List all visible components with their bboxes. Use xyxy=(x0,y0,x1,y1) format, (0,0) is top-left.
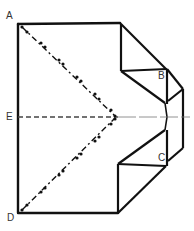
bottom-flap xyxy=(118,130,183,213)
center-crease xyxy=(165,103,167,130)
mountain-fold-line-d xyxy=(22,118,115,210)
top-flap xyxy=(120,23,183,148)
label-b: B xyxy=(158,71,165,81)
label-e: E xyxy=(6,112,13,122)
paper-outline xyxy=(18,23,120,213)
origami-diagram: A B E C D xyxy=(0,0,194,231)
label-c: C xyxy=(158,153,165,163)
label-d: D xyxy=(7,213,14,223)
diagram-drawing xyxy=(0,0,194,231)
fold-dots xyxy=(20,25,116,211)
mountain-fold-line-a xyxy=(22,27,115,116)
label-a: A xyxy=(6,11,13,21)
